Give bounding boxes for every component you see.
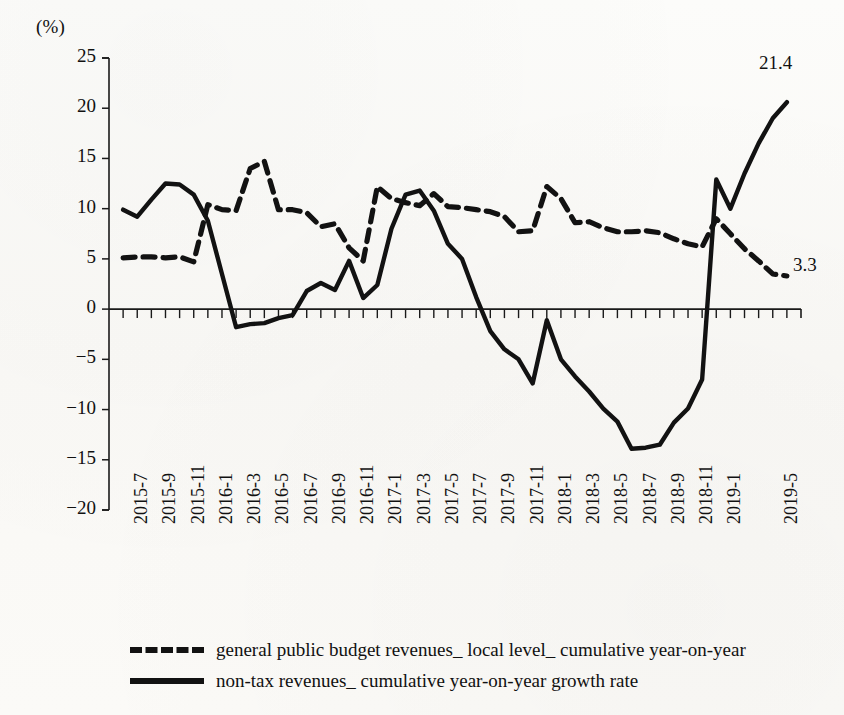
series-line-1 xyxy=(123,161,787,275)
y-tick-label: 10 xyxy=(50,196,96,218)
x-tick-label: 2017-9 xyxy=(498,473,519,524)
x-tick-label: 2017-5 xyxy=(442,473,463,524)
y-tick-label: −5 xyxy=(50,346,96,368)
x-tick-label: 2015-7 xyxy=(131,473,152,524)
y-tick-label: −20 xyxy=(50,497,96,519)
y-tick-label: 20 xyxy=(50,95,96,117)
x-tick-label: 2017-3 xyxy=(414,473,435,524)
x-tick-label: 2018-7 xyxy=(640,473,661,524)
chart-legend: general public budget revenues_ local le… xyxy=(130,634,746,696)
y-axis-unit-label: (%) xyxy=(36,16,65,38)
data-label-21-4: 21.4 xyxy=(759,52,792,74)
x-tick-label: 2018-3 xyxy=(583,473,604,524)
x-tick-label: 2019-5 xyxy=(781,473,802,524)
x-tick-label: 2016-7 xyxy=(301,473,322,524)
y-tick-label: −15 xyxy=(50,447,96,469)
x-tick-label: 2017-11 xyxy=(527,465,548,524)
x-tick-label: 2018-9 xyxy=(668,473,689,524)
x-tick-label: 2016-9 xyxy=(329,473,350,524)
legend-item-general-public-budget-revenues: general public budget revenues_ local le… xyxy=(130,634,746,665)
x-tick-label: 2016-11 xyxy=(357,465,378,524)
data-label-3-3: 3.3 xyxy=(793,254,817,276)
y-tick-label: 25 xyxy=(50,45,96,67)
dashed-line-swatch-icon xyxy=(130,647,204,653)
solid-line-swatch-icon xyxy=(130,678,204,684)
legend-item-label: general public budget revenues_ local le… xyxy=(216,639,746,661)
legend-item-non-tax-revenues: non-tax revenues_ cumulative year-on-yea… xyxy=(130,665,746,696)
y-tick-label: 0 xyxy=(50,296,96,318)
x-tick-label: 2016-1 xyxy=(216,473,237,524)
x-tick-label: 2016-5 xyxy=(272,473,293,524)
series-line-2 xyxy=(123,102,787,449)
x-tick-label: 2017-1 xyxy=(385,473,406,524)
x-tick-label: 2018-5 xyxy=(611,473,632,524)
x-tick-label: 2018-11 xyxy=(696,465,717,524)
x-tick-label: 2017-7 xyxy=(470,473,491,524)
axes-layer xyxy=(102,58,801,510)
series-layer xyxy=(123,102,787,449)
x-tick-label: 2015-9 xyxy=(159,473,180,524)
y-tick-label: 5 xyxy=(50,246,96,268)
legend-item-label: non-tax revenues_ cumulative year-on-yea… xyxy=(216,670,638,692)
x-tick-label: 2016-3 xyxy=(244,473,265,524)
x-tick-label: 2019-1 xyxy=(724,473,745,524)
y-tick-label: 15 xyxy=(50,145,96,167)
x-tick-label: 2018-1 xyxy=(555,473,576,524)
x-tick-label: 2015-11 xyxy=(188,465,209,524)
plot-area xyxy=(0,0,844,715)
chart-figure: (%) 2520151050−5−10−15−20 2015-72015-920… xyxy=(0,0,844,715)
y-tick-label: −10 xyxy=(50,397,96,419)
